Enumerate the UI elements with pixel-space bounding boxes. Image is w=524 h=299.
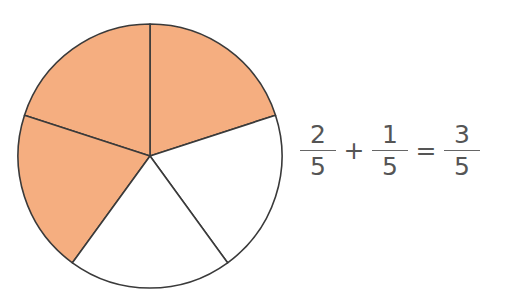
fraction-term-1: 2 5 bbox=[300, 121, 336, 182]
fraction-term-2: 1 5 bbox=[372, 121, 408, 182]
denominator: 5 bbox=[310, 153, 326, 181]
numerator: 3 bbox=[454, 121, 470, 149]
fraction-pie-chart bbox=[0, 0, 300, 299]
fraction-bar bbox=[444, 150, 480, 152]
numerator: 1 bbox=[382, 121, 398, 149]
equals-sign: = bbox=[408, 136, 444, 165]
fraction-result: 3 5 bbox=[444, 121, 480, 182]
denominator: 5 bbox=[382, 153, 398, 181]
denominator: 5 bbox=[454, 153, 470, 181]
fraction-equation: 2 5 + 1 5 = 3 5 bbox=[300, 118, 480, 184]
numerator: 2 bbox=[310, 121, 326, 149]
plus-sign: + bbox=[336, 136, 372, 165]
fraction-bar bbox=[300, 150, 336, 152]
fraction-bar bbox=[372, 150, 408, 152]
